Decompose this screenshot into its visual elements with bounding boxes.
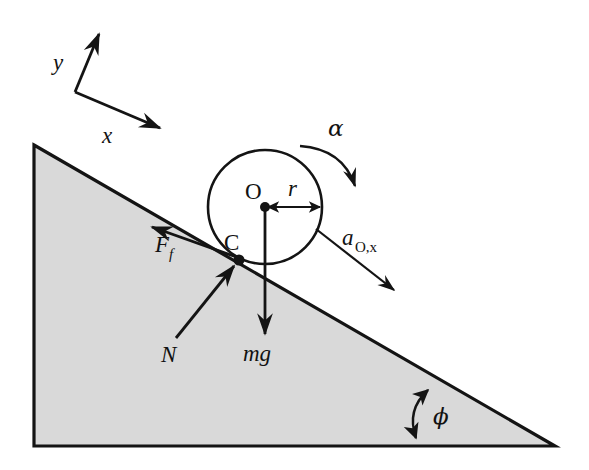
angular-acceleration-label: α [328, 115, 344, 141]
axis-y-arrow [75, 34, 99, 92]
acceleration-label-base: a [342, 225, 354, 250]
acceleration-label: a O,x [342, 225, 378, 255]
normal-force-label: N [160, 342, 178, 367]
center-label: O [245, 179, 262, 204]
friction-force-label-base: F [154, 232, 170, 257]
radius-label: r [288, 176, 298, 201]
incline-angle-label: ϕ [433, 403, 449, 429]
contact-point-label: C [224, 230, 239, 255]
axis-x-label: x [101, 123, 113, 148]
free-body-diagram-canvas: y x O r C F f N mg α a O,x ϕ [0, 0, 589, 470]
acceleration-label-subscript: O,x [355, 239, 378, 255]
weight-label: mg [243, 341, 271, 366]
contact-point-dot [234, 255, 245, 266]
physics-diagram-figure: y x O r C F f N mg α a O,x ϕ [0, 0, 589, 470]
axis-y-label: y [51, 50, 64, 75]
coordinate-axes [75, 34, 160, 128]
axis-x-arrow [75, 92, 160, 128]
